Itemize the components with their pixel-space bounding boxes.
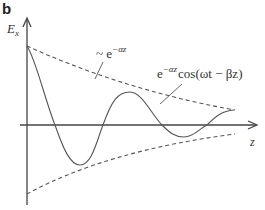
- envelope-annotation: ~ e−αz: [96, 44, 127, 61]
- damped-wave: [27, 46, 234, 165]
- lower-envelope: [27, 134, 235, 194]
- wave-annotation: e−αzcos(ωt − βz): [157, 64, 242, 81]
- x-axis-label: z: [249, 135, 255, 149]
- y-axis-label: Ex: [6, 21, 19, 38]
- damped-wave-diagram: Ex z ~ e−αz e−αzcos(ωt − βz): [0, 0, 265, 210]
- envelope-pointer: [95, 62, 103, 79]
- wave-pointer: [160, 84, 182, 104]
